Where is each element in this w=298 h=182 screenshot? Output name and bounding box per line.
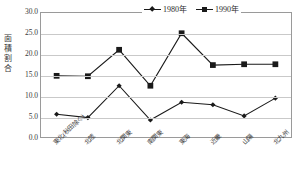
y-axis-title: 面積割合 bbox=[2, 34, 13, 74]
data-point-marker bbox=[116, 47, 122, 53]
data-point-marker bbox=[210, 62, 216, 68]
legend-label: 1980年 bbox=[163, 6, 187, 14]
y-axis-tick-label: 15.0 bbox=[25, 71, 38, 79]
legend-item: 1990年 bbox=[196, 5, 239, 14]
y-axis-tick-label: 20.0 bbox=[25, 50, 38, 58]
series-line bbox=[57, 86, 276, 120]
y-axis-tick-label: 5.0 bbox=[29, 113, 38, 121]
legend-label: 1990年 bbox=[215, 6, 239, 14]
data-point-marker bbox=[241, 61, 247, 67]
data-point-marker bbox=[147, 83, 153, 89]
y-axis-tick-label: 10.0 bbox=[25, 92, 38, 100]
line-chart: 面積割合 30.025.020.015.010.05.00.0 1980年199… bbox=[0, 0, 298, 182]
y-axis-tick-label: 25.0 bbox=[25, 29, 38, 37]
diamond-marker-icon bbox=[144, 5, 161, 14]
data-point-marker bbox=[210, 102, 215, 107]
gridline bbox=[41, 97, 291, 98]
gridline bbox=[41, 55, 291, 56]
square-marker-icon bbox=[196, 5, 213, 14]
legend-item: 1980年 bbox=[144, 5, 187, 14]
data-point-marker bbox=[272, 61, 278, 67]
data-point-marker bbox=[54, 112, 59, 117]
y-axis-tick-label: 30.0 bbox=[25, 8, 38, 16]
data-point-marker bbox=[179, 100, 184, 105]
x-axis-tick-labels: 東北(秋田除く)北陸北関東南関東東海近畿山陽北九州 bbox=[0, 138, 298, 182]
gridline bbox=[41, 34, 291, 35]
gridline bbox=[41, 76, 291, 77]
chart-legend: 1980年1990年 bbox=[142, 3, 241, 16]
